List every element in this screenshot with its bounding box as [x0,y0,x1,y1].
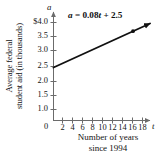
x-axis-variable: t [152,122,154,131]
data-point-marker [131,29,135,33]
y-axis-variable: a [47,3,51,12]
y-tick-label-2-0: 2.0 [22,77,48,85]
y-tick-label-3-5: 3.5 [22,32,48,40]
equation-slope: 0.08 [82,10,98,20]
y-tick-label-4-0: $4.0 [22,18,48,26]
x-axis-title-line-2: since 1994 [55,143,161,154]
data-line-series-1 [54,24,151,68]
equation-equals: = [75,10,80,20]
chart-figure: Average federal student aid (in thousand… [0,0,161,156]
equation-intercept: 2.5 [111,10,122,20]
equation-annotation: a = 0.08t + 2.5 [68,10,122,20]
equation-plus: + [103,10,108,20]
equation-lhs: a [68,10,73,20]
x-axis-title-line-1: Number of years [55,132,161,143]
origin-label: 0 [44,123,48,131]
y-tick-label-1-0: 1.0 [22,105,48,113]
y-tick-label-3-0: 3.0 [22,46,48,54]
y-tick-label-1-5: 1.5 [22,91,48,99]
y-tick-label-2-5: 2.5 [22,62,48,70]
equation-variable: t [99,10,102,20]
x-axis-title: Number of years since 1994 [55,132,161,154]
